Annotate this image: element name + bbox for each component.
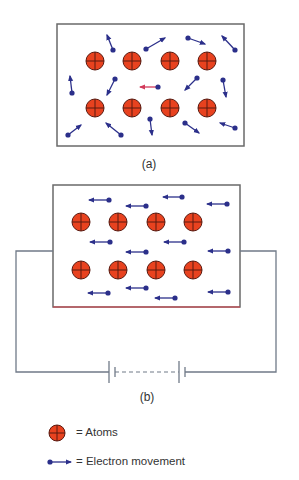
panel-a-label: (a) [129, 157, 169, 171]
atom-icon [123, 52, 141, 70]
atom-icon [72, 213, 90, 231]
panel-a-random-motion [57, 24, 244, 146]
legend-graphics [47, 425, 71, 465]
atom-icon [161, 99, 179, 117]
panel-b-directed-flow [53, 185, 240, 307]
conduction-diagram [0, 0, 299, 480]
battery-cell-icon [179, 361, 185, 383]
atom-icon [184, 213, 202, 231]
atom-icon [147, 213, 165, 231]
electron-arrow-icon [47, 459, 71, 464]
atom-icon [184, 261, 202, 279]
legend-electron-label: = Electron movement [76, 455, 185, 467]
atom-icon [109, 261, 127, 279]
atom-icon [198, 52, 216, 70]
atom-icon [86, 99, 104, 117]
atom-icon [198, 99, 216, 117]
atom-icon [109, 213, 127, 231]
atom-icon [123, 99, 141, 117]
atom-icon [86, 52, 104, 70]
atom-icon [161, 52, 179, 70]
atom-icon [49, 425, 65, 441]
atom-icon [147, 261, 165, 279]
legend-atoms-label: = Atoms [76, 426, 118, 438]
atom-icon [72, 261, 90, 279]
battery-cell-icon [109, 361, 115, 383]
panel-b-label: (b) [127, 390, 167, 404]
